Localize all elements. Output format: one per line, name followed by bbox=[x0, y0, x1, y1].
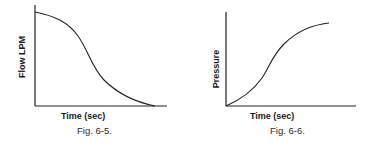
fig-6-6-axes bbox=[226, 12, 356, 106]
fig-6-6-x-axis-label: Time (sec) bbox=[250, 111, 294, 121]
fig-6-5-y-axis-label: Flow LPM bbox=[17, 36, 27, 78]
fig-6-6-caption: Fig. 6-6. bbox=[270, 125, 305, 136]
fig-6-6-y-axis-label: Pressure bbox=[211, 50, 221, 89]
fig-6-5-x-axis-label: Time (sec) bbox=[61, 111, 105, 121]
fig-6-6-pressure-curve bbox=[226, 23, 329, 106]
fig-6-5-caption: Fig. 6-5. bbox=[77, 125, 112, 136]
figures-canvas bbox=[0, 0, 371, 149]
fig-6-5-flow-curve bbox=[35, 12, 155, 106]
fig-6-5-axes bbox=[35, 5, 167, 106]
